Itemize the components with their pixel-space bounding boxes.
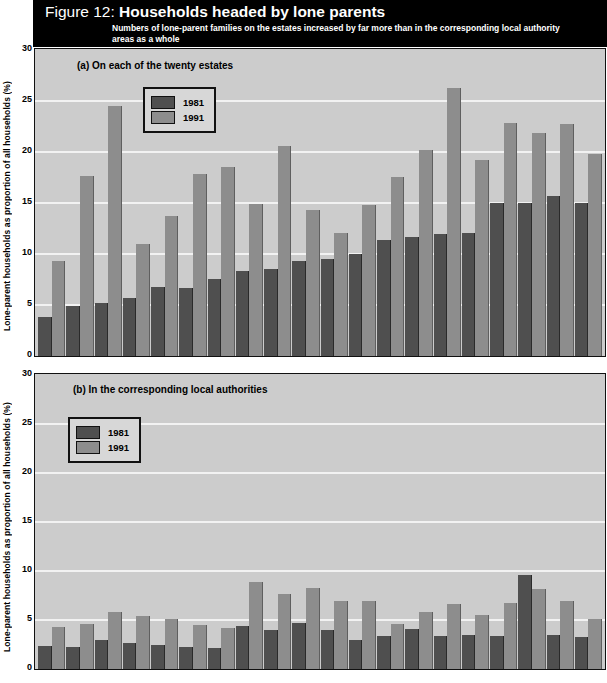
bar-1991 xyxy=(306,210,320,356)
y-tick: 25 xyxy=(10,418,32,427)
bar-group xyxy=(179,374,206,669)
panel-b-title: (b) In the corresponding local authoriti… xyxy=(73,384,267,395)
bar-group xyxy=(518,374,545,669)
bar-1991 xyxy=(560,124,574,356)
bar-group xyxy=(434,374,461,669)
bar-1981 xyxy=(236,271,250,356)
bar-1991 xyxy=(136,244,150,356)
legend-item: 1981 xyxy=(151,96,204,109)
bar-1981 xyxy=(179,647,193,669)
bar-1991 xyxy=(532,133,546,356)
y-tick: 5 xyxy=(10,299,32,308)
bar-1981 xyxy=(434,636,448,669)
bar-group xyxy=(405,49,432,356)
legend-label: 1981 xyxy=(183,97,204,108)
figure-number: Figure 12: xyxy=(45,3,115,20)
bar-group xyxy=(38,374,65,669)
bar-1991 xyxy=(362,205,376,356)
chart-panel-b: Lone-parent households as proportion of … xyxy=(0,372,607,683)
bar-group xyxy=(95,49,122,356)
bar-1981 xyxy=(349,640,363,670)
bar-1981 xyxy=(292,623,306,669)
bar-1991 xyxy=(306,588,320,669)
bar-1981 xyxy=(95,303,109,356)
y-tick: 0 xyxy=(10,663,32,672)
bar-1981 xyxy=(518,203,532,357)
bar-group xyxy=(208,374,235,669)
bar-group xyxy=(405,374,432,669)
bar-1991 xyxy=(419,612,433,669)
bar-group xyxy=(547,49,574,356)
bar-1981 xyxy=(377,636,391,669)
bar-1981 xyxy=(38,317,52,356)
bar-1981 xyxy=(490,203,504,357)
y-tick: 30 xyxy=(10,44,32,53)
bar-group xyxy=(236,374,263,669)
legend-b: 1981 1991 xyxy=(68,417,141,463)
bar-1991 xyxy=(334,233,348,356)
bar-1981 xyxy=(490,636,504,669)
legend-item: 1981 xyxy=(76,426,129,439)
bar-1991 xyxy=(334,601,348,669)
bar-1991 xyxy=(52,627,66,669)
bar-1981 xyxy=(66,647,80,669)
legend-label: 1991 xyxy=(108,442,129,453)
bar-1981 xyxy=(292,261,306,356)
legend-label: 1981 xyxy=(108,427,129,438)
figure-title-line: Figure 12: Households headed by lone par… xyxy=(45,3,607,21)
bar-group xyxy=(518,49,545,356)
bar-1991 xyxy=(52,261,66,356)
bar-1981 xyxy=(547,196,561,356)
bar-1991 xyxy=(419,150,433,356)
bar-1991 xyxy=(588,154,602,356)
bar-group xyxy=(462,49,489,356)
bar-series-a xyxy=(35,49,605,356)
bar-1991 xyxy=(504,123,518,356)
bar-1991 xyxy=(362,601,376,669)
bar-1991 xyxy=(80,624,94,669)
bar-1981 xyxy=(377,240,391,356)
legend-label: 1991 xyxy=(183,112,204,123)
bar-group xyxy=(66,49,93,356)
bar-1991 xyxy=(475,615,489,669)
legend-swatch-1981-icon xyxy=(151,96,175,109)
legend-a: 1981 1991 xyxy=(143,87,216,133)
bar-1991 xyxy=(193,174,207,356)
bar-group xyxy=(349,374,376,669)
legend-swatch-1991-icon xyxy=(151,111,175,124)
bar-group xyxy=(547,374,574,669)
chart-panel-a: Lone-parent households as proportion of … xyxy=(0,47,607,367)
bar-1981 xyxy=(264,269,278,356)
bar-group xyxy=(292,49,319,356)
bar-1991 xyxy=(504,603,518,669)
bar-1991 xyxy=(447,88,461,356)
y-axis-ticks-b: 30 25 20 15 10 5 0 xyxy=(8,372,32,683)
bar-1981 xyxy=(462,635,476,669)
bar-group xyxy=(377,49,404,356)
bar-1991 xyxy=(249,582,263,669)
bar-group xyxy=(434,49,461,356)
bar-1991 xyxy=(193,625,207,669)
y-tick: 20 xyxy=(10,146,32,155)
bar-1991 xyxy=(278,594,292,669)
figure-page: Figure 12: Households headed by lone par… xyxy=(0,0,607,683)
page-title: Households headed by lone parents xyxy=(119,3,385,20)
bar-group xyxy=(462,374,489,669)
bar-1981 xyxy=(434,234,448,356)
bar-1981 xyxy=(575,203,589,357)
bar-1981 xyxy=(179,288,193,356)
y-tick: 25 xyxy=(10,95,32,104)
bar-1991 xyxy=(108,106,122,356)
bar-1991 xyxy=(391,624,405,669)
bar-1991 xyxy=(221,167,235,356)
bar-1981 xyxy=(321,259,335,356)
bar-1991 xyxy=(80,176,94,356)
bar-1991 xyxy=(560,601,574,669)
bar-1991 xyxy=(532,589,546,669)
y-axis-ticks-a: 30 25 20 15 10 5 0 xyxy=(8,47,32,365)
bar-1981 xyxy=(38,646,52,669)
bar-1991 xyxy=(221,628,235,669)
bar-1981 xyxy=(264,630,278,669)
bar-1981 xyxy=(236,626,250,669)
bar-1981 xyxy=(123,643,137,669)
